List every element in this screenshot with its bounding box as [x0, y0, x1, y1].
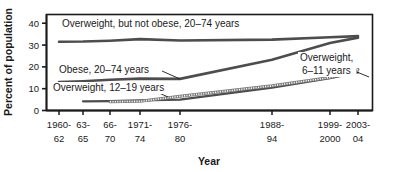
- chart-figure: 010203040 Overweight, but not obese, 20–…: [0, 0, 393, 172]
- line-chart-canvas: 010203040 Overweight, but not obese, 20–…: [0, 0, 393, 172]
- y-axis-ticks: 010203040: [28, 18, 46, 116]
- x-tick-label: 74: [135, 133, 146, 144]
- x-tick-label: 1960-: [47, 119, 71, 130]
- x-tick-label: 62: [54, 133, 65, 144]
- x-tick-label: 80: [175, 133, 186, 144]
- x-axis-title: Year: [198, 155, 220, 167]
- y-tick-label: 0: [34, 105, 39, 116]
- x-tick-label: 1988-: [260, 119, 284, 130]
- y-tick-label: 20: [28, 61, 39, 72]
- x-tick-label: 04: [353, 133, 364, 144]
- y-axis-title: Percent of population: [2, 8, 14, 116]
- y-tick-label: 40: [28, 18, 39, 29]
- ann-overweight-6-11-line2: 6–11 years: [302, 65, 351, 76]
- y-tick-label: 10: [28, 83, 39, 94]
- x-tick-label: 2003-: [346, 119, 370, 130]
- x-tick-label: 63-: [76, 119, 90, 130]
- x-tick-label: 65: [78, 133, 89, 144]
- x-tick-label: 1976-: [168, 119, 192, 130]
- x-tick-label: 1971-: [128, 119, 152, 130]
- x-tick-label: 2000: [319, 133, 340, 144]
- y-tick-label: 30: [28, 40, 39, 51]
- x-axis-tick-labels: 1960-6263-6566-701971-741976-801988-9419…: [47, 119, 370, 144]
- ann-obese: Obese, 20–74 years: [59, 64, 149, 75]
- x-tick-label: 66-: [103, 119, 117, 130]
- x-tick-label: 70: [105, 133, 116, 144]
- ann-overweight-12-19: Overweight, 12–19 years: [53, 82, 164, 93]
- x-tick-label: 94: [267, 133, 278, 144]
- ann-overweight-not-obese: Overweight, but not obese, 20–74 years: [62, 18, 239, 29]
- ann-overweight-6-11-line1: Overweight,: [300, 52, 353, 63]
- x-tick-label: 1999-: [318, 119, 342, 130]
